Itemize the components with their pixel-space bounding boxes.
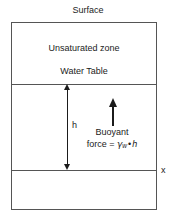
h-dimension-arrow <box>67 84 68 170</box>
arrowhead-down-icon <box>64 164 70 170</box>
x-axis-label: x <box>161 165 166 175</box>
water-table-line <box>11 84 157 85</box>
depth-variable: h <box>132 139 137 149</box>
dimension-shaft <box>67 88 68 166</box>
buoyant-arrow-shaft <box>112 105 114 126</box>
unsaturated-zone-label: Unsaturated zone <box>48 43 119 53</box>
buoyant-force-title: Buoyant <box>87 126 137 138</box>
h-dimension-label: h <box>72 120 77 130</box>
buoyant-force-caption: Buoyant force = γw•h <box>87 126 137 152</box>
buoyant-force-equation: force = γw•h <box>87 138 137 152</box>
equation-prefix: force = <box>87 139 115 149</box>
buoyant-force-diagram: Surface Unsaturated zone Water Table h B… <box>0 0 176 222</box>
surface-label: Surface <box>72 5 103 15</box>
water-table-label: Water Table <box>60 66 108 76</box>
buoyant-force-arrow <box>112 98 113 126</box>
datum-line <box>11 170 157 171</box>
